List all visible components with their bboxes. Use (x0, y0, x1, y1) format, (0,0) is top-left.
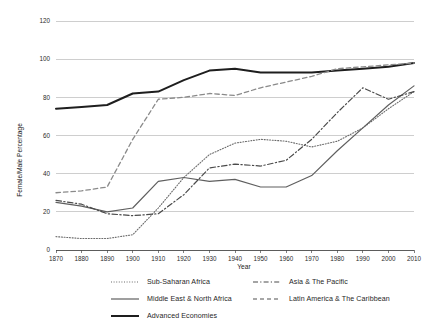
x-tick-label: 1980 (330, 255, 345, 262)
x-tick-label: 2010 (407, 255, 422, 262)
x-tick-label: 1910 (151, 255, 166, 262)
y-axis-tick-labels: 020406080100120 (39, 17, 50, 253)
y-tick-label: 40 (43, 170, 51, 177)
legend-swatch-solid-thin-icon (110, 294, 140, 304)
legend-swatch-dotted-icon (110, 277, 140, 287)
legend-swatch-dashed-icon (252, 294, 282, 304)
x-tick-label: 1880 (75, 255, 90, 262)
x-tick-label: 1950 (254, 255, 269, 262)
legend-item-asia-the-pacific: Asia & The Pacific (252, 274, 348, 290)
y-tick-label: 120 (39, 17, 50, 24)
x-tick-label: 1920 (177, 255, 192, 262)
legend-label: Advanced Economies (147, 312, 217, 320)
legend-swatch-dashdot-icon (252, 277, 282, 287)
y-tick-label: 20 (43, 208, 51, 215)
series-line-advanced-economies (56, 63, 414, 109)
x-tick-label: 1990 (356, 255, 371, 262)
legend-item-advanced-economies: Advanced Economies (110, 308, 217, 324)
data-series-group (56, 63, 414, 239)
series-line-asia-the-pacific (56, 88, 414, 216)
legend-label: Latin America & The Caribbean (289, 295, 390, 303)
x-tick-label: 1940 (228, 255, 243, 262)
series-line-latin-america-the-caribbean (56, 63, 414, 193)
x-tick-label: 1930 (202, 255, 217, 262)
x-tick-label: 1960 (279, 255, 294, 262)
x-axis-title: Year (237, 263, 251, 270)
series-line-sub-saharan-africa (56, 92, 414, 239)
x-tick-label: 1900 (126, 255, 141, 262)
chart-legend: Sub-Saharan Africa Middle East & North A… (0, 272, 432, 330)
y-tick-label: 80 (43, 94, 51, 101)
legend-label: Sub-Saharan Africa (147, 278, 210, 286)
x-tick-label: 1870 (49, 255, 64, 262)
line-chart: 020406080100120 187018801890190019101920… (0, 0, 432, 330)
legend-swatch-solid-thick-icon (110, 311, 140, 321)
legend-label: Middle East & North Africa (147, 295, 232, 303)
y-tick-label: 100 (39, 55, 50, 62)
y-tick-label: 60 (43, 132, 51, 139)
legend-item-middle-east-north-africa: Middle East & North Africa (110, 291, 232, 307)
x-axis-tick-labels: 1870188018901900191019201930194019501960… (49, 255, 422, 262)
y-tick-label: 0 (46, 246, 50, 253)
legend-item-latin-america-the-caribbean: Latin America & The Caribbean (252, 291, 390, 307)
y-axis-title: Female/Male Percentage (16, 123, 24, 197)
legend-label: Asia & The Pacific (289, 278, 348, 286)
x-tick-label: 1890 (100, 255, 115, 262)
gridlines (56, 21, 414, 250)
legend-item-sub-saharan-africa: Sub-Saharan Africa (110, 274, 210, 290)
x-tick-label: 2000 (381, 255, 396, 262)
x-tick-label: 1970 (305, 255, 320, 262)
